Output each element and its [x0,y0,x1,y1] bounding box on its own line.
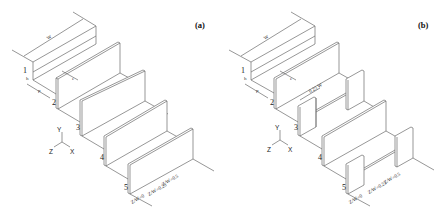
rib-label-1: 1 [23,66,27,75]
rib-label-2: 2 [52,98,56,107]
dim-extension-right [73,12,96,26]
rib-4-b [322,100,386,166]
rib-5-b-back [395,127,413,167]
rib-label-4-b: 4 [318,153,322,162]
rib-3-b-back [346,70,364,110]
ribbed-channel-diagram: W 1 2 3 4 [0,0,448,216]
plane-label-0-b: Z/W=0 [348,193,363,205]
rib-label-3-b: 3 [294,123,298,132]
rib-label-2-b: 2 [270,98,274,107]
axis-x-label: X [70,148,75,155]
rib-3-b-front [298,97,316,136]
panel-b: W [229,12,434,206]
rib-label-4: 4 [100,153,104,162]
axis-z-label: Z [49,148,53,155]
plane-label-0: Z/W=0 [130,193,145,205]
rib-label-1-b: 1 [241,66,245,75]
rib-label-5-b: 5 [342,183,346,192]
axis-z-label-b: Z [267,146,271,153]
axis-triad-b: Y Z X [267,124,293,153]
axis-y-label-b: Y [275,124,280,131]
plane-label-0.25: Z/W=0.25 [147,182,168,197]
height-label-b: h [244,76,247,81]
axis-y-label: Y [57,126,62,133]
width-label: W [46,34,53,41]
panel-label-b: (b) [418,20,429,30]
panel-a: W 1 2 3 4 [12,12,214,206]
axis-triad: Y Z X [49,126,75,155]
rib-label-5: 5 [124,183,128,192]
axis-x-label-b: X [288,146,293,153]
rib-5-b-front [346,155,364,194]
rib-label-3: 3 [76,123,80,132]
plane-label-0.25-b: Z/W=0.25 [367,180,388,195]
width-label-b: W [263,34,270,41]
dim-extension-left [12,50,33,62]
height-label: h [26,76,29,81]
panel-label-a: (a) [195,20,205,30]
